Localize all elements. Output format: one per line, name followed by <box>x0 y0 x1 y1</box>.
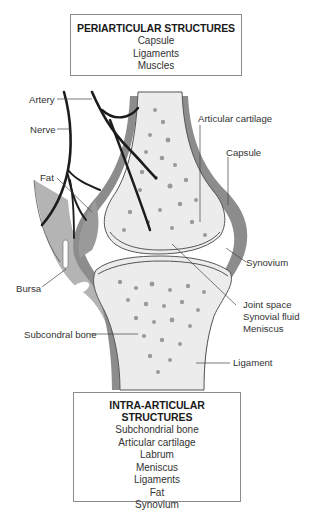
label-synovial-fluid: Synovial fluid <box>243 311 300 322</box>
intraarticular-item: Synovium <box>74 499 240 512</box>
bursa-sac <box>63 240 68 268</box>
periarticular-structures-box: PERIARTICULAR STRUCTURES Capsule Ligamen… <box>70 14 242 76</box>
label-ligament: Ligament <box>233 357 272 368</box>
intraarticular-structures-box: INTRA-ARTICULAR STRUCTURES Subchondrial … <box>73 392 241 502</box>
intraarticular-item: Articular cartilage <box>74 437 240 450</box>
intraarticular-item: Labrum <box>74 449 240 462</box>
intraarticular-item: Meniscus <box>74 462 240 475</box>
label-joint-space: Joint space <box>243 299 292 310</box>
intraarticular-item: Fat <box>74 487 240 500</box>
intraarticular-title: INTRA-ARTICULAR STRUCTURES <box>74 399 240 423</box>
label-subchondral-bone: Subcondral bone <box>24 329 97 340</box>
periarticular-item: Muscles <box>71 60 241 73</box>
periarticular-item: Ligaments <box>71 48 241 61</box>
label-nerve: Nerve <box>30 124 56 135</box>
periarticular-item: Capsule <box>71 35 241 48</box>
label-capsule: Capsule <box>226 147 261 158</box>
label-meniscus: Meniscus <box>243 323 284 334</box>
label-articular-cartilage: Articular cartilage <box>198 113 272 124</box>
label-artery: Artery <box>29 94 55 105</box>
intraarticular-item: Ligaments <box>74 474 240 487</box>
periarticular-title: PERIARTICULAR STRUCTURES <box>71 22 241 34</box>
label-fat: Fat <box>40 172 54 183</box>
label-synovium: Synovium <box>246 257 288 268</box>
label-bursa: Bursa <box>16 283 41 294</box>
intraarticular-item: Subchondrial bone <box>74 424 240 437</box>
